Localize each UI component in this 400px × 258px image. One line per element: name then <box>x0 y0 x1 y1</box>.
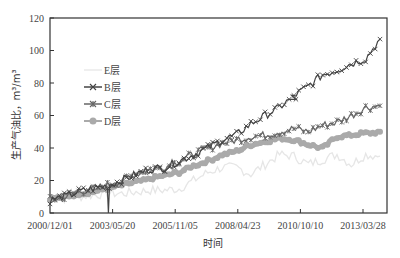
legend: E层B层C层D层 <box>84 65 121 127</box>
legend-label: E层 <box>104 65 120 76</box>
x-axis-title: 时间 <box>203 237 223 249</box>
y-tick-label: 120 <box>29 13 44 24</box>
legend-label: C层 <box>104 99 121 110</box>
legend-item: E层 <box>84 65 120 76</box>
y-axis-title-text: 生产气油比，m³/m³ <box>10 70 22 161</box>
y-tick-label: 20 <box>34 175 44 186</box>
x-tick-label: 2000/12/01 <box>27 220 73 231</box>
y-axis-title: 生产气油比，m³/m³ <box>10 70 22 161</box>
x-tick-label: 2013/03/28 <box>340 220 386 231</box>
x-tick-label: 2008/04/23 <box>215 220 261 231</box>
y-tick-label: 0 <box>39 208 44 219</box>
y-tick-label: 40 <box>34 143 44 154</box>
legend-item: D层 <box>84 116 121 127</box>
circle-marker-icon <box>90 118 97 125</box>
legend-label: D层 <box>104 116 121 127</box>
legend-label: B层 <box>104 82 121 93</box>
y-tick-label: 60 <box>34 110 44 121</box>
y-tick-label: 80 <box>34 78 44 89</box>
gor-chart: 生产气油比，m³/m³ 2000/12/012003/05/202005/11/… <box>0 0 400 258</box>
series-layer <box>47 37 383 213</box>
x-tick-label: 2003/05/20 <box>90 220 136 231</box>
series-D层 <box>47 129 383 204</box>
x-axis-ticks: 2000/12/012003/05/202005/11/052008/04/23… <box>27 209 386 231</box>
y-tick-label: 100 <box>29 45 44 56</box>
x-tick-label: 2010/10/10 <box>278 220 324 231</box>
legend-item: B层 <box>84 82 121 93</box>
legend-item: C层 <box>84 99 121 110</box>
x-tick-label: 2005/11/05 <box>153 220 198 231</box>
